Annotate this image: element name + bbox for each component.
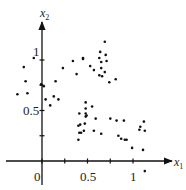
data-point bbox=[43, 85, 46, 88]
data-point bbox=[84, 107, 87, 110]
x-tick-label-0: 0 bbox=[34, 169, 41, 184]
data-point bbox=[108, 81, 111, 84]
data-point bbox=[23, 66, 26, 69]
x-tick-label-0.5: 0.5 bbox=[80, 169, 96, 184]
data-point bbox=[84, 122, 87, 125]
axis-ticks bbox=[40, 60, 134, 164]
data-point bbox=[104, 71, 107, 74]
data-point bbox=[75, 73, 78, 76]
data-point bbox=[131, 147, 134, 150]
data-point bbox=[83, 129, 86, 132]
data-point bbox=[104, 54, 107, 57]
data-point bbox=[123, 119, 126, 122]
data-point bbox=[78, 112, 81, 115]
y-axis-label: x2 bbox=[39, 6, 49, 22]
scatter-plot: 0 0.5 1 0.5 1 x1 x2 bbox=[0, 0, 186, 190]
y-tick-label-1: 1 bbox=[33, 44, 40, 59]
data-point bbox=[98, 57, 101, 60]
data-point bbox=[144, 170, 147, 173]
data-point bbox=[94, 117, 97, 120]
data-point bbox=[114, 78, 117, 81]
data-point bbox=[125, 139, 128, 142]
data-point bbox=[82, 58, 85, 61]
data-point bbox=[79, 123, 82, 126]
data-point bbox=[101, 75, 104, 78]
data-point bbox=[72, 60, 75, 63]
data-point bbox=[53, 95, 56, 98]
data-point bbox=[100, 61, 103, 64]
data-point bbox=[144, 129, 147, 132]
data-point bbox=[80, 131, 83, 134]
data-point bbox=[93, 69, 96, 72]
data-point bbox=[77, 139, 80, 142]
data-point bbox=[120, 138, 123, 141]
data-point bbox=[142, 149, 145, 152]
y-tick-label-0.5: 0.5 bbox=[23, 103, 39, 118]
data-point bbox=[84, 115, 87, 118]
data-point bbox=[100, 67, 103, 70]
data-point bbox=[109, 117, 112, 120]
data-point bbox=[40, 83, 43, 86]
data-point bbox=[138, 128, 141, 131]
data-point bbox=[105, 60, 108, 63]
x-tick-label-1: 1 bbox=[130, 169, 137, 184]
data-point bbox=[84, 101, 87, 104]
data-point bbox=[26, 92, 29, 95]
data-point bbox=[93, 129, 96, 132]
data-point bbox=[62, 67, 65, 70]
data-point bbox=[54, 80, 57, 83]
data-point bbox=[16, 93, 19, 96]
data-point bbox=[115, 119, 118, 122]
data-point bbox=[99, 51, 102, 54]
x-axis-label: x1 bbox=[173, 155, 183, 171]
data-point bbox=[91, 105, 94, 108]
data-point bbox=[49, 104, 52, 107]
data-point bbox=[139, 125, 142, 128]
data-point bbox=[117, 135, 120, 138]
data-point bbox=[100, 132, 103, 135]
data-point bbox=[98, 74, 101, 77]
data-point bbox=[143, 120, 146, 123]
data-point bbox=[24, 80, 27, 83]
data-point bbox=[89, 65, 92, 68]
data-point bbox=[104, 41, 107, 44]
data-point bbox=[44, 98, 47, 101]
data-point bbox=[57, 98, 60, 101]
